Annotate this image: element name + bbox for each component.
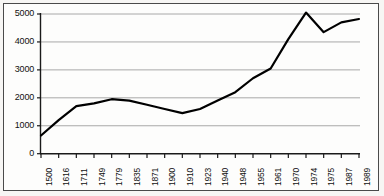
axes-group (40, 13, 360, 154)
x-tick-label: 1871 (151, 168, 160, 186)
x-tick-label: 1835 (133, 168, 142, 186)
y-tick-label: 5000 (4, 9, 34, 18)
x-tick-label: 1970 (292, 168, 301, 186)
x-tick-label: 1910 (186, 168, 195, 186)
x-tick-label: 1923 (204, 168, 213, 186)
x-tick-label: 1989 (363, 168, 372, 186)
gridlines-group (41, 14, 360, 154)
y-tick-label: 0 (4, 149, 34, 158)
x-tick-label: 1975 (327, 168, 336, 186)
x-tick-label: 1900 (168, 168, 177, 186)
x-tick-label: 1955 (257, 168, 266, 186)
x-tick-label: 1948 (239, 168, 248, 186)
x-tick-label: 1974 (310, 168, 319, 186)
chart-figure: 010002000300040005000 150016161711174917… (0, 0, 384, 196)
data-series-line (41, 13, 359, 136)
chart-plot-area (0, 0, 384, 196)
x-tick-label: 1500 (45, 168, 54, 186)
y-tick-label: 3000 (4, 65, 34, 74)
y-tick-label: 2000 (4, 93, 34, 102)
x-tick-label: 1616 (62, 168, 71, 186)
x-tick-label: 1779 (115, 168, 124, 186)
y-tick-label: 1000 (4, 121, 34, 130)
x-tick-label: 1987 (345, 168, 354, 186)
x-tick-label: 1711 (80, 169, 89, 186)
y-tick-label: 4000 (4, 37, 34, 46)
x-tick-label: 1749 (98, 168, 107, 186)
x-tick-label: 1940 (221, 168, 230, 186)
x-tick-label: 1961 (274, 168, 283, 186)
